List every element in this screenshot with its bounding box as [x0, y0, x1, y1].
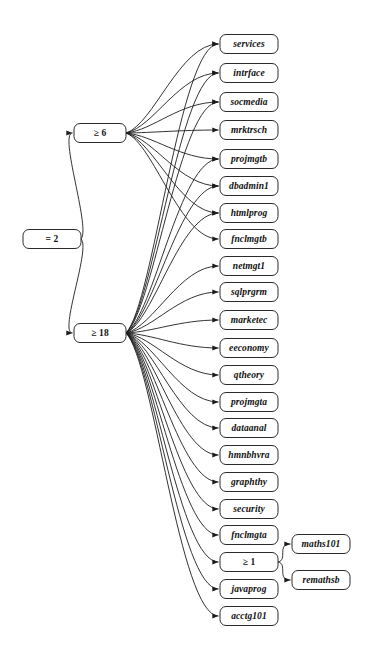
node-dataanal[interactable]: dataanal: [220, 419, 278, 438]
node-label-javaprog: javaprog: [229, 584, 266, 594]
edge-arrowhead: [212, 183, 218, 188]
node-label-htmlprog: htmlprog: [231, 208, 268, 218]
edge-arrowhead: [212, 210, 218, 215]
node-label-intrface: intrface: [233, 68, 265, 78]
node-ge6[interactable]: ≥ 6: [74, 124, 126, 143]
node-label-dataanal: dataanal: [231, 423, 266, 433]
node-projmgta[interactable]: projmgta: [220, 393, 278, 412]
edge-arrowhead: [212, 263, 218, 268]
node-label-netmgt1: netmgt1: [233, 261, 265, 271]
node-dbadmin1[interactable]: dbadmin1: [220, 177, 278, 196]
edge-arrowhead: [212, 479, 218, 484]
node-label-root: = 2: [46, 234, 59, 244]
node-label-sqlprgrm: sqlprgrm: [230, 287, 267, 297]
edge-ge18-to-htmlprog: [126, 213, 219, 333]
edge-arrowhead: [212, 236, 218, 241]
node-label-projmgtb: projmgtb: [230, 154, 267, 164]
node-label-graphthy: graphthy: [230, 477, 268, 487]
node-label-fnclmgta: fnclmgta: [231, 530, 267, 540]
node-mrktrsch[interactable]: mrktrsch: [220, 121, 278, 140]
node-socmedia[interactable]: socmedia: [220, 93, 278, 112]
edge-arrowhead: [212, 559, 218, 564]
node-label-fnclmgtb: fnclmgtb: [231, 234, 267, 244]
node-label-ge6: ≥ 6: [94, 128, 107, 138]
edge-ge18-to-acctg101: [126, 333, 219, 616]
edge-arrowhead: [212, 372, 218, 377]
node-fnclmgtb[interactable]: fnclmgtb: [220, 230, 278, 249]
edge-arrowhead: [212, 399, 218, 404]
node-label-eeconomy: eeconomy: [229, 343, 270, 353]
node-label-remathsb: remathsb: [302, 575, 339, 585]
node-htmlprog[interactable]: htmlprog: [220, 204, 278, 223]
node-security[interactable]: security: [220, 500, 278, 519]
edge-ge18-to-services: [126, 44, 219, 333]
edge-ge6-to-mrktrsch: [126, 130, 219, 133]
edge-arrowhead: [66, 130, 72, 135]
edge-ge18-to-marketec: [126, 320, 219, 333]
edge-arrowhead: [212, 99, 218, 104]
node-javaprog[interactable]: javaprog: [220, 580, 278, 599]
node-projmgtb[interactable]: projmgtb: [220, 150, 278, 169]
node-hmnbhvra[interactable]: hmnbhvra: [220, 446, 278, 465]
node-remathsb[interactable]: remathsb: [292, 571, 350, 590]
node-ge1[interactable]: ≥ 1: [220, 553, 278, 572]
edge-arrowhead: [284, 541, 290, 546]
edge-arrowhead: [212, 586, 218, 591]
edge-arrowhead: [284, 577, 290, 582]
edge-ge18-to-qtheory: [126, 333, 219, 375]
prerequisite-graph: = 2≥ 6≥ 18servicesintrfacesocmediamrktrs…: [0, 0, 367, 655]
node-ge18[interactable]: ≥ 18: [74, 324, 126, 343]
node-label-qtheory: qtheory: [234, 370, 265, 380]
edge-arrowhead: [212, 289, 218, 294]
edge-arrowhead: [212, 317, 218, 322]
node-intrface[interactable]: intrface: [220, 64, 278, 83]
node-fnclmgta[interactable]: fnclmgta: [220, 526, 278, 545]
edge-root-to-ge18: [69, 239, 83, 333]
node-label-services: services: [232, 39, 265, 49]
edge-ge18-to-hmnbhvra: [126, 333, 219, 455]
node-eeconomy[interactable]: eeconomy: [220, 339, 278, 358]
node-label-hmnbhvra: hmnbhvra: [228, 450, 270, 460]
edge-arrowhead: [212, 452, 218, 457]
node-sqlprgrm[interactable]: sqlprgrm: [220, 283, 278, 302]
edge-ge18-to-sqlprgrm: [126, 292, 219, 333]
edge-ge18-to-netmgt1: [126, 266, 219, 333]
node-label-ge18: ≥ 18: [91, 328, 109, 338]
node-label-acctg101: acctg101: [231, 611, 267, 621]
edge-arrowhead: [212, 41, 218, 46]
edge-arrowhead: [212, 345, 218, 350]
edge-ge18-to-dbadmin1: [126, 186, 219, 333]
node-label-maths101: maths101: [302, 539, 341, 549]
diagram-canvas: = 2≥ 6≥ 18servicesintrfacesocmediamrktrs…: [0, 0, 367, 655]
node-root[interactable]: = 2: [23, 230, 81, 249]
edge-ge6-to-projmgtb: [126, 133, 219, 159]
node-acctg101[interactable]: acctg101: [220, 607, 278, 626]
edge-ge18-to-javaprog: [126, 333, 219, 589]
node-label-projmgta: projmgta: [230, 397, 267, 407]
node-marketec[interactable]: marketec: [220, 311, 278, 330]
node-label-socmedia: socmedia: [229, 97, 267, 107]
edge-arrowhead: [212, 613, 218, 618]
edge-arrowhead: [212, 506, 218, 511]
edge-arrowhead: [212, 532, 218, 537]
edge-ge6-to-services: [126, 44, 219, 133]
node-label-marketec: marketec: [231, 315, 268, 325]
edge-ge1-to-remathsb: [278, 562, 291, 580]
node-label-mrktrsch: mrktrsch: [231, 125, 267, 135]
node-label-ge1: ≥ 1: [243, 557, 256, 567]
node-label-security: security: [232, 504, 265, 514]
edge-arrowhead: [212, 425, 218, 430]
edge-root-to-ge6: [69, 133, 83, 239]
edge-arrowhead: [212, 127, 218, 132]
node-maths101[interactable]: maths101: [292, 535, 350, 554]
edge-arrowhead: [212, 156, 218, 161]
edge-ge6-to-socmedia: [126, 102, 219, 133]
node-netmgt1[interactable]: netmgt1: [220, 257, 278, 276]
node-services[interactable]: services: [220, 35, 278, 54]
node-graphthy[interactable]: graphthy: [220, 473, 278, 492]
edge-arrowhead: [212, 70, 218, 75]
edge-ge1-to-maths101: [278, 544, 291, 562]
node-label-dbadmin1: dbadmin1: [229, 181, 269, 191]
node-qtheory[interactable]: qtheory: [220, 366, 278, 385]
